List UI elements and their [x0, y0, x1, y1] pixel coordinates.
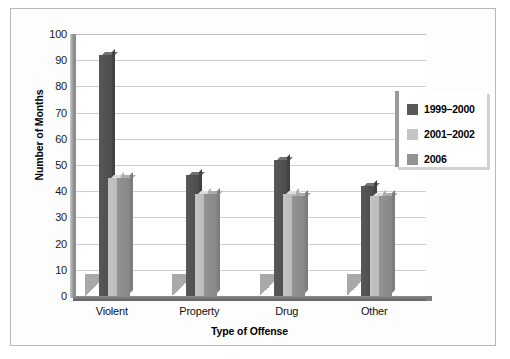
x-axis-tick-label: Other	[361, 305, 388, 317]
y-axis-tick-label: 90	[15, 54, 67, 66]
bar-face	[117, 178, 130, 296]
bar-top	[102, 52, 118, 55]
legend-item[interactable]: 1999–2000	[407, 103, 475, 115]
x-axis-line	[73, 296, 426, 301]
y-axis-tick-label: 20	[15, 238, 67, 250]
legend-item-label: 1999–2000	[424, 103, 475, 115]
y-axis-tick-label: 10	[15, 264, 67, 276]
legend-swatch-icon	[407, 154, 418, 165]
y-axis-tick-labels: 0102030405060708090100	[11, 34, 67, 296]
y-axis-tick-label: 0	[15, 290, 67, 302]
legend-item-label: 2001–2002	[424, 128, 475, 140]
gridline	[76, 86, 426, 87]
bar-top	[207, 191, 223, 194]
legend-swatch-icon	[407, 104, 418, 115]
legend-item[interactable]: 2001–2002	[407, 128, 475, 140]
plot-area	[73, 34, 426, 300]
bar-side	[217, 188, 220, 293]
x-axis-line-cap	[426, 296, 432, 301]
legend-item[interactable]: 2006	[407, 153, 447, 165]
x-axis-tick-label: Violent	[96, 305, 128, 317]
y-axis-tick-label: 70	[15, 107, 67, 119]
bar-side	[392, 190, 395, 293]
bar[interactable]	[204, 194, 217, 296]
bar-side	[130, 172, 133, 293]
bar[interactable]	[117, 178, 130, 296]
bar[interactable]	[379, 196, 392, 296]
bar-top	[364, 183, 380, 186]
legend-item-label: 2006	[424, 153, 447, 165]
x-axis-tick-labels: ViolentPropertyDrugOther	[73, 305, 426, 321]
gridline	[76, 139, 426, 140]
x-axis-tick-label: Property	[179, 305, 219, 317]
y-axis-tick-label: 30	[15, 211, 67, 223]
bar-face	[204, 194, 217, 296]
y-axis-tick-label: 100	[15, 28, 67, 40]
gridline	[76, 113, 426, 114]
chart-legend: 1999–20002001–20022006	[395, 91, 487, 167]
bar-top	[277, 157, 293, 160]
x-axis-tick-label: Drug	[275, 305, 298, 317]
bar-face	[379, 196, 392, 296]
gridline	[76, 165, 426, 166]
x-axis-title: Type of Offense	[73, 325, 426, 337]
bar-face	[292, 196, 305, 296]
gridline	[76, 60, 426, 61]
y-axis-tick-label: 80	[15, 80, 67, 92]
legend-swatch-icon	[407, 129, 418, 140]
chart-figure: Number of Months 0102030405060708090100 …	[10, 8, 496, 346]
y-axis-tick-label: 50	[15, 159, 67, 171]
bar[interactable]	[292, 196, 305, 296]
y-axis-tick-label: 60	[15, 133, 67, 145]
bar-side	[305, 190, 308, 293]
y-axis-tick-label: 40	[15, 185, 67, 197]
bar-top	[120, 175, 136, 178]
gridline	[76, 34, 426, 35]
